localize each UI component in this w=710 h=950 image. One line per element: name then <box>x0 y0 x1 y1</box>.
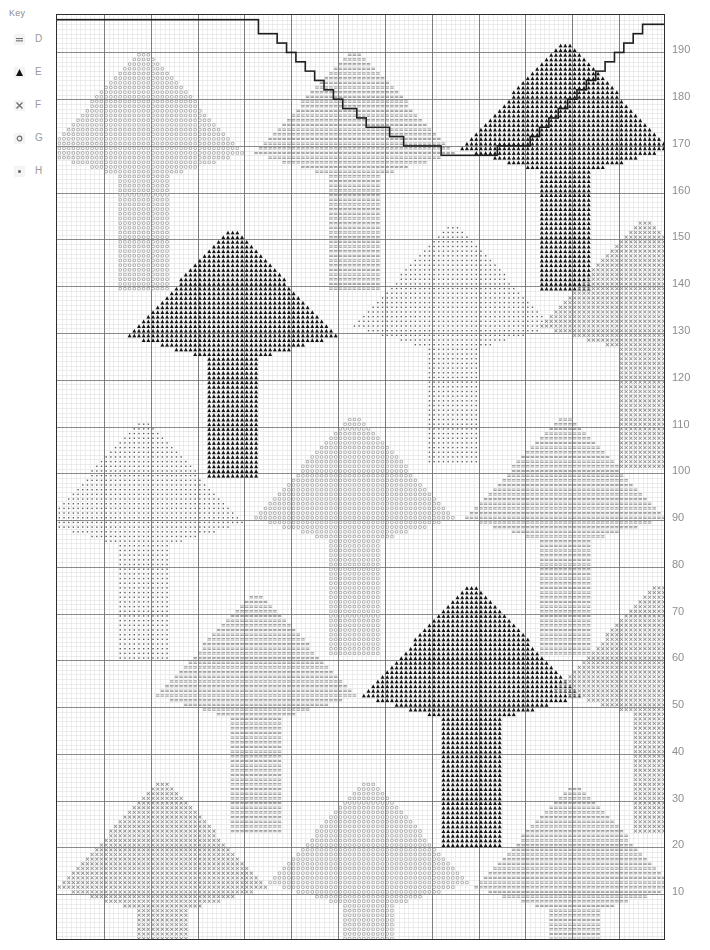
axis-tick-30: 30 <box>672 792 684 804</box>
axis-tick-90: 90 <box>672 511 684 523</box>
dot-symbol <box>14 166 25 177</box>
key-label-f: F <box>35 99 41 110</box>
axis-tick-110: 110 <box>672 418 690 430</box>
triangle-symbol <box>14 67 25 78</box>
axis-tick-180: 180 <box>672 90 690 102</box>
key-label-e: E <box>35 66 42 77</box>
axis-tick-100: 100 <box>672 464 690 476</box>
axis-tick-130: 130 <box>672 324 690 336</box>
key-row-h: H <box>6 166 54 177</box>
key-legend: Key DEFGH <box>6 8 54 193</box>
axis-tick-160: 160 <box>672 184 690 196</box>
key-row-e: E <box>6 67 54 78</box>
pattern-chart[interactable] <box>56 14 665 940</box>
circle-symbol <box>14 133 25 144</box>
backstitch-canvas <box>57 15 665 940</box>
key-row-g: G <box>6 133 54 144</box>
row-number-axis: 1901801701601501401301201101009080706050… <box>668 0 710 950</box>
axis-tick-150: 150 <box>672 230 690 242</box>
key-label-d: D <box>35 33 42 44</box>
axis-tick-140: 140 <box>672 277 690 289</box>
key-title: Key <box>9 8 25 18</box>
axis-tick-20: 20 <box>672 838 684 850</box>
key-label-h: H <box>35 165 42 176</box>
axis-tick-80: 80 <box>672 558 684 570</box>
axis-tick-60: 60 <box>672 651 684 663</box>
axis-tick-190: 190 <box>672 43 690 55</box>
axis-tick-70: 70 <box>672 605 684 617</box>
axis-tick-120: 120 <box>672 371 690 383</box>
dash-symbol <box>14 34 25 45</box>
key-row-f: F <box>6 100 54 111</box>
cross-symbol <box>14 100 25 111</box>
key-label-g: G <box>35 132 43 143</box>
axis-tick-170: 170 <box>672 137 690 149</box>
key-row-d: D <box>6 34 54 45</box>
axis-tick-10: 10 <box>672 885 684 897</box>
axis-tick-50: 50 <box>672 698 684 710</box>
axis-tick-40: 40 <box>672 745 684 757</box>
